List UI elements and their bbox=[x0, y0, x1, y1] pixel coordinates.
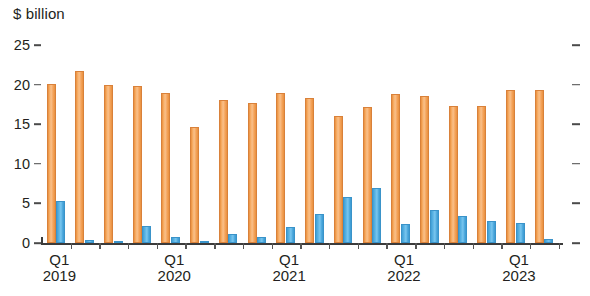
bar-blue bbox=[372, 188, 381, 243]
x-axis-label: Q12020 bbox=[158, 252, 191, 284]
y-axis-tick-mark-left bbox=[34, 242, 41, 244]
x-axis-label: Q12021 bbox=[272, 252, 305, 284]
y-axis-tick-mark-right bbox=[572, 242, 580, 244]
bar-orange bbox=[391, 94, 400, 243]
bar-orange bbox=[219, 100, 228, 243]
bar-chart: $ billion 0510152025 Q12019Q12020Q12021Q… bbox=[0, 0, 590, 296]
bar-orange bbox=[305, 98, 314, 243]
bar-orange bbox=[276, 93, 285, 243]
x-axis-baseline bbox=[41, 243, 563, 245]
x-axis-label-quarter: Q1 bbox=[43, 252, 76, 268]
y-axis-tick-mark-right bbox=[572, 84, 580, 86]
x-axis-label: Q12023 bbox=[502, 252, 535, 284]
y-axis-tick-mark-right bbox=[572, 203, 580, 205]
y-axis-tick-label: 20 bbox=[0, 77, 30, 92]
y-axis-tick-labels: 0510152025 bbox=[0, 38, 30, 248]
y-axis-tick-mark-left bbox=[34, 123, 41, 125]
x-axis-tick-mark bbox=[157, 243, 158, 249]
bar-blue bbox=[286, 227, 295, 243]
plot-area bbox=[43, 45, 560, 243]
x-axis-tick-mark bbox=[501, 243, 502, 249]
x-axis-tick-mark bbox=[243, 243, 244, 249]
bar-blue bbox=[516, 223, 525, 243]
x-axis-tick-mark bbox=[214, 243, 215, 249]
x-axis-tick-mark bbox=[559, 243, 560, 249]
x-axis-tick-mark bbox=[415, 243, 416, 249]
bar-orange bbox=[104, 85, 113, 243]
y-axis-tick-label: 15 bbox=[0, 117, 30, 132]
x-axis-tick-mark bbox=[71, 243, 72, 249]
x-axis-tick-mark bbox=[99, 243, 100, 249]
x-axis-tick-mark bbox=[329, 243, 330, 249]
origin-tick bbox=[41, 237, 43, 245]
bar-orange bbox=[133, 86, 142, 243]
x-axis-label-year: 2021 bbox=[272, 268, 305, 284]
x-axis-tick-mark bbox=[473, 243, 474, 249]
x-axis-label-quarter: Q1 bbox=[502, 252, 535, 268]
bar-blue bbox=[56, 201, 65, 243]
bar-orange bbox=[449, 106, 458, 243]
y-axis-tick-mark-left bbox=[34, 163, 41, 165]
y-axis-tick-mark-right bbox=[572, 123, 580, 125]
x-axis-label-quarter: Q1 bbox=[158, 252, 191, 268]
x-axis-tick-mark bbox=[444, 243, 445, 249]
y-axis-tick-label: 10 bbox=[0, 157, 30, 172]
x-axis-tick-mark bbox=[300, 243, 301, 249]
x-axis-tick-mark bbox=[185, 243, 186, 249]
y-axis-tick-mark-left bbox=[34, 44, 41, 46]
bar-orange bbox=[161, 93, 170, 243]
y-axis-tick-mark-left bbox=[34, 84, 41, 86]
x-axis-label: Q12019 bbox=[43, 252, 76, 284]
x-axis-label-year: 2019 bbox=[43, 268, 76, 284]
bar-orange bbox=[248, 103, 257, 243]
x-axis-tick-mark bbox=[358, 243, 359, 249]
x-axis-label-year: 2023 bbox=[502, 268, 535, 284]
bar-blue bbox=[228, 234, 237, 244]
y-axis-tick-label: 5 bbox=[0, 196, 30, 211]
bar-orange bbox=[190, 127, 199, 243]
bar-orange bbox=[535, 90, 544, 243]
x-axis-label: Q12022 bbox=[387, 252, 420, 284]
bar-blue bbox=[142, 226, 151, 243]
x-axis-tick-mark bbox=[386, 243, 387, 249]
axis-unit-label: $ billion bbox=[13, 5, 65, 22]
y-axis-tick-mark-left bbox=[34, 203, 41, 205]
bar-orange bbox=[363, 107, 372, 243]
bar-blue bbox=[458, 216, 467, 243]
bar-blue bbox=[315, 214, 324, 243]
x-axis-tick-mark bbox=[530, 243, 531, 249]
bar-orange bbox=[47, 84, 56, 243]
x-axis-label-quarter: Q1 bbox=[272, 252, 305, 268]
bar-orange bbox=[477, 106, 486, 243]
bar-orange bbox=[75, 71, 84, 243]
y-axis-tick-mark-right bbox=[572, 163, 580, 165]
bar-blue bbox=[430, 210, 439, 243]
x-axis-tick-mark bbox=[272, 243, 273, 249]
x-axis-label-quarter: Q1 bbox=[387, 252, 420, 268]
y-axis-tick-label: 25 bbox=[0, 38, 30, 53]
bar-orange bbox=[420, 96, 429, 243]
x-axis-label-year: 2022 bbox=[387, 268, 420, 284]
bar-orange bbox=[334, 116, 343, 243]
y-axis-tick-label: 0 bbox=[0, 236, 30, 251]
x-axis-label-year: 2020 bbox=[158, 268, 191, 284]
bar-orange bbox=[506, 90, 515, 243]
bar-blue bbox=[487, 221, 496, 243]
y-axis-tick-mark-right bbox=[572, 44, 580, 46]
bar-blue bbox=[343, 197, 352, 243]
bar-blue bbox=[401, 224, 410, 243]
x-axis-tick-mark bbox=[128, 243, 129, 249]
